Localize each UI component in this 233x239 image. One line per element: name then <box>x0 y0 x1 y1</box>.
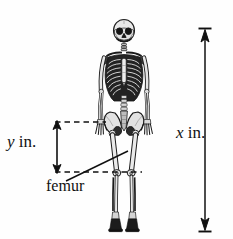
leg-left-group <box>109 135 123 232</box>
y-variable: y <box>7 132 15 151</box>
skeleton-figure <box>96 20 153 232</box>
y-unit-text: in. <box>19 132 36 151</box>
y-measure-arrow <box>53 121 61 174</box>
figure-canvas: the numbers (see figure) <box>0 0 233 239</box>
diagram-graphics <box>0 0 233 239</box>
x-measure-label: x in. <box>176 124 205 141</box>
lumbar-spine <box>121 96 127 111</box>
leg-right-group <box>126 135 140 232</box>
x-variable: x <box>176 123 184 142</box>
pelvis-group <box>104 111 144 137</box>
ribcage-group <box>105 55 143 102</box>
cervical-spine <box>121 43 127 50</box>
femur-callout-label: femur <box>46 178 84 194</box>
x-unit-text: in. <box>188 123 205 142</box>
y-measure-label: y in. <box>7 133 36 150</box>
skull-group <box>114 20 135 43</box>
